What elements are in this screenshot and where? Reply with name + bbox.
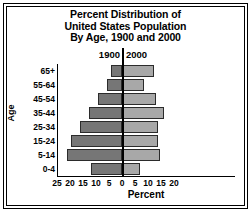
y-axis-tick-label: 65+ (14, 64, 55, 78)
bar-1900 (89, 107, 122, 119)
bar-1900 (107, 79, 122, 91)
bar-2000 (122, 107, 164, 119)
legend-label-1900: 1900 (99, 49, 120, 60)
bar-rows (57, 64, 235, 176)
chart-figure: Percent Distribution of United States Po… (0, 0, 251, 212)
bar-1900 (91, 163, 122, 175)
bar-2000 (122, 163, 140, 175)
bar-row (57, 92, 235, 106)
x-axis-line (57, 176, 235, 177)
bar-2000 (122, 79, 144, 91)
bar-1900 (67, 149, 122, 161)
y-axis-tick-label: 45-54 (14, 92, 55, 106)
chart-legend: 1900 2000 (0, 49, 251, 62)
x-axis-tick-label: 20 (165, 178, 183, 188)
chart-title: Percent Distribution of United States Po… (10, 9, 241, 44)
bar-row (57, 64, 235, 78)
bar-row (57, 106, 235, 120)
y-axis-tick-label: 25-34 (14, 120, 55, 134)
y-axis-tick-label: 15-24 (14, 134, 55, 148)
y-axis-title: Age (6, 93, 16, 133)
y-axis-tick-label: 35-44 (14, 106, 55, 120)
bar-2000 (122, 149, 160, 161)
bar-row (57, 148, 235, 162)
x-axis-title: Percent (57, 189, 235, 200)
bar-row (57, 162, 235, 176)
y-axis-tick-labels: 65+55-6445-5435-4425-3415-245-140-4 (14, 64, 55, 176)
bar-2000 (122, 93, 156, 105)
legend-label-2000: 2000 (126, 49, 147, 60)
bar-1900 (98, 93, 122, 105)
bar-row (57, 120, 235, 134)
zero-axis-line (122, 62, 124, 177)
bar-2000 (122, 121, 158, 133)
y-axis-tick-label: 0-4 (14, 162, 55, 176)
x-axis-tick-labels: 25201510505101520 (57, 178, 235, 189)
bar-row (57, 78, 235, 92)
y-axis-tick-label: 55-64 (14, 78, 55, 92)
bar-1900 (80, 121, 122, 133)
y-axis-tick-label: 5-14 (14, 148, 55, 162)
bar-2000 (122, 65, 154, 77)
bar-1900 (111, 65, 122, 77)
legend-divider (122, 48, 124, 62)
bar-row (57, 134, 235, 148)
chart-title-line-1: Percent Distribution of (10, 9, 241, 21)
chart-title-line-3: By Age, 1900 and 2000 (10, 32, 241, 44)
bar-2000 (122, 135, 158, 147)
bar-1900 (71, 135, 122, 147)
plot-area (57, 64, 235, 177)
